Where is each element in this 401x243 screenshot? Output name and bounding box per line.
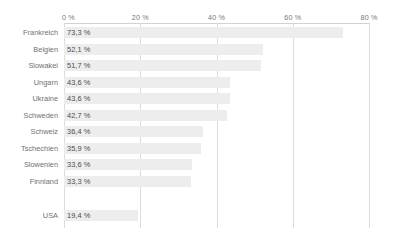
- bar-value-ungarn: 43,6 %: [67, 77, 90, 88]
- category-label-slowenien: Slowenien: [0, 159, 58, 170]
- bar-value-usa: 19,4 %: [67, 210, 90, 221]
- bar-value-schweiz: 36,4 %: [67, 126, 90, 137]
- category-label-finnland: Finnland: [0, 176, 58, 187]
- category-label-schweden: Schweden: [0, 110, 58, 121]
- bar-row: Schweden42,7 %: [0, 110, 401, 121]
- bar-frankreich: [64, 27, 343, 38]
- bar-value-slowenien: 33,6 %: [67, 159, 90, 170]
- bar-value-schweden: 42,7 %: [67, 110, 90, 121]
- bar-row: Slowenien33,6 %: [0, 159, 401, 170]
- category-label-ukraine: Ukraine: [0, 93, 58, 104]
- bar-row: Slowakei51,7 %: [0, 60, 401, 71]
- bar-value-finnland: 33,3 %: [67, 176, 90, 187]
- x-tick-label-20: 20 %: [132, 13, 149, 22]
- bar-chart: 0 %20 %40 %60 %80 % Frankreich73,3 %Belg…: [0, 0, 401, 243]
- bar-row: USA19,4 %: [0, 210, 401, 221]
- bar-value-ukraine: 43,6 %: [67, 93, 90, 104]
- bar-value-belgien: 52,1 %: [67, 44, 90, 55]
- bar-belgien: [64, 44, 263, 55]
- category-label-frankreich: Frankreich: [0, 27, 58, 38]
- category-label-ungarn: Ungarn: [0, 77, 58, 88]
- x-tick-label-0: 0 %: [62, 13, 75, 22]
- category-label-tschechien: Tschechien: [0, 143, 58, 154]
- bar-slowakei: [64, 60, 261, 71]
- category-label-belgien: Belgien: [0, 44, 58, 55]
- x-tick-label-60: 60 %: [284, 13, 301, 22]
- category-label-usa: USA: [0, 210, 58, 221]
- bar-value-frankreich: 73,3 %: [67, 27, 90, 38]
- bar-row: Belgien52,1 %: [0, 44, 401, 55]
- bar-row: Frankreich73,3 %: [0, 27, 401, 38]
- bar-row: Tschechien35,9 %: [0, 143, 401, 154]
- bar-value-tschechien: 35,9 %: [67, 143, 90, 154]
- bar-value-slowakei: 51,7 %: [67, 60, 90, 71]
- x-tick-label-80: 80 %: [361, 13, 378, 22]
- bar-row: Ukraine43,6 %: [0, 93, 401, 104]
- bar-row: Finnland33,3 %: [0, 176, 401, 187]
- bar-row: Schweiz36,4 %: [0, 126, 401, 137]
- category-label-schweiz: Schweiz: [0, 126, 58, 137]
- category-label-slowakei: Slowakei: [0, 60, 58, 71]
- x-tick-label-40: 40 %: [208, 13, 225, 22]
- bar-row: Ungarn43,6 %: [0, 77, 401, 88]
